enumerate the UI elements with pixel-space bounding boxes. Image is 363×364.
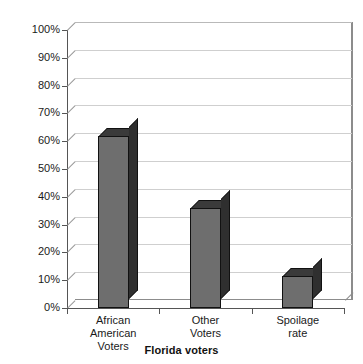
y-axis-label: 10% — [14, 274, 60, 285]
y-tick-mark — [62, 58, 67, 59]
bar-front-face — [98, 136, 129, 308]
y-axis-label: 50% — [14, 163, 60, 174]
y-tick-mark — [62, 86, 67, 87]
gridline — [75, 50, 353, 51]
wall-right-edge — [352, 22, 353, 300]
gridline — [75, 78, 353, 79]
bar-front-face — [190, 208, 221, 308]
y-axis-label: 70% — [14, 107, 60, 118]
y-axis-label: 40% — [14, 191, 60, 202]
y-axis-label: 0% — [14, 302, 60, 313]
bar-side-face — [221, 190, 230, 299]
gridline — [75, 22, 353, 23]
category-label-line: rate — [243, 327, 353, 340]
y-tick-mark — [62, 141, 67, 142]
y-tick-mark — [62, 252, 67, 253]
bar-column — [190, 200, 221, 308]
y-tick-mark — [62, 113, 67, 114]
y-axis-label: 20% — [14, 246, 60, 257]
y-tick-mark — [62, 169, 67, 170]
x-axis-title: Florida voters — [0, 344, 363, 356]
y-axis-label: 100% — [14, 24, 60, 35]
y-axis-label: 60% — [14, 135, 60, 146]
y-tick-mark — [62, 280, 67, 281]
x-axis-category-label: Spoilagerate — [243, 314, 353, 340]
bar-chart: 0%10%20%30%40%50%60%70%80%90%100% Africa… — [0, 0, 363, 364]
bar-front-face — [282, 276, 313, 308]
y-axis-label: 90% — [14, 52, 60, 63]
y-tick-mark — [62, 197, 67, 198]
gridline — [75, 105, 353, 106]
bar-column — [282, 268, 313, 308]
y-axis-label: 80% — [14, 80, 60, 91]
y-tick-mark — [62, 225, 67, 226]
category-label-line: Spoilage — [243, 314, 353, 327]
bar-side-face — [129, 118, 138, 299]
y-tick-mark — [62, 30, 67, 31]
floor-front-edge — [67, 308, 345, 309]
y-axis-label: 30% — [14, 219, 60, 230]
bar-column — [98, 128, 129, 308]
